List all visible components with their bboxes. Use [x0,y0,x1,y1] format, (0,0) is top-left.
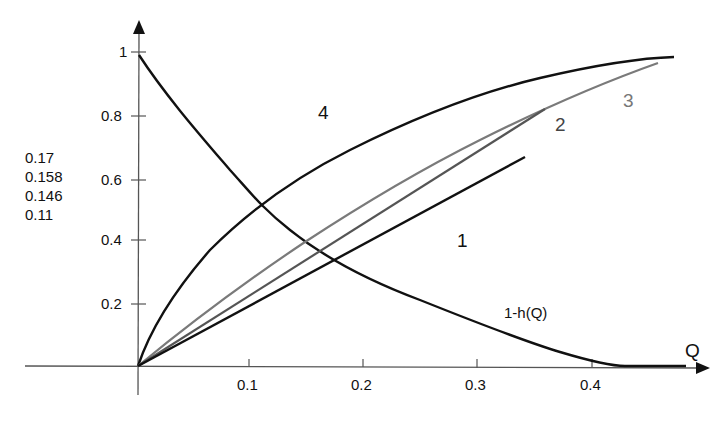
y-tick-label-1: 1 [119,44,127,59]
chart-canvas [0,0,726,421]
x-tick-label-0.3: 0.3 [465,377,486,392]
x-tick-label-0.1: 0.1 [237,377,258,392]
y-axis-arrow-icon [133,20,145,34]
intersection-value: 0.146 [25,186,63,205]
y-tick-label-0.8: 0.8 [101,108,122,123]
curve-2 [138,109,545,366]
curve-label-3: 3 [623,91,634,110]
curve-label-1-minus-h: 1-h(Q) [504,305,547,320]
curve-1-minus-h [139,55,686,366]
intersection-values-list: 0.17 0.158 0.146 0.11 [25,148,63,224]
curve-3 [138,63,658,366]
y-tick-label-0.6: 0.6 [101,172,122,187]
x-tick-label-0.2: 0.2 [351,377,372,392]
curve-label-1: 1 [457,231,468,250]
x-axis-arrow-icon [696,362,710,374]
y-tick-label-0.2: 0.2 [101,296,122,311]
curve-label-4: 4 [318,103,329,122]
x-axis-label: Q [685,341,700,360]
curve-label-2: 2 [555,115,566,134]
y-tick-label-0.4: 0.4 [101,232,122,247]
curve-1 [138,157,525,366]
intersection-value: 0.11 [25,205,63,224]
intersection-value: 0.158 [25,167,63,186]
y-axis [138,28,139,395]
x-tick-label-0.4: 0.4 [580,377,601,392]
intersection-value: 0.17 [25,148,63,167]
curve-4 [138,57,674,366]
